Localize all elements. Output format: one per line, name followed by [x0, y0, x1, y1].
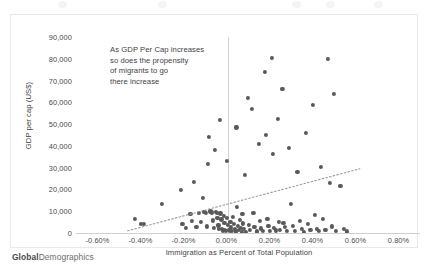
- annotation-line-1: As GDP Per Cap increases: [110, 45, 222, 56]
- x-tick-label: -0.40%: [128, 236, 152, 245]
- cropped-toolbar-remnant: [0, 0, 430, 13]
- annotation-line-3: of migrants to go: [110, 66, 222, 77]
- annotation-text: As GDP Per Cap increases so does the pro…: [110, 45, 222, 87]
- y-tick-label: 50,000: [49, 120, 72, 129]
- x-tick-label: 0.20%: [259, 236, 280, 245]
- y-tick-label: 30,000: [49, 163, 72, 172]
- chart-screenshot: 010,00020,00030,00040,00050,00060,00070,…: [0, 0, 430, 276]
- y-tick-label: 70,000: [49, 76, 72, 85]
- y-tick-label: 80,000: [49, 54, 72, 63]
- x-tick-label: 0.80%: [388, 236, 409, 245]
- brand-footer: GlobalDemographics: [12, 252, 94, 262]
- brand-rest: Demographics: [39, 252, 94, 262]
- y-tick-label: 40,000: [49, 141, 72, 150]
- x-tick-label: 0.60%: [345, 236, 366, 245]
- chart-frame: 010,00020,00030,00040,00050,00060,00070,…: [10, 14, 418, 248]
- x-axis-title-text: Immigration as Percent of Total Populati…: [166, 248, 313, 257]
- brand-bold: Global: [12, 252, 39, 262]
- x-tick-label: 0.00%: [216, 236, 237, 245]
- x-tick-label: 0.40%: [302, 236, 323, 245]
- x-tick-label: -0.20%: [171, 236, 195, 245]
- annotation-line-2: so does the propensity: [110, 56, 222, 67]
- y-axis-title: GDP per cap (US$): [24, 56, 33, 176]
- y-tick-label: 10,000: [49, 207, 72, 216]
- x-tick-label: -0.60%: [85, 236, 109, 245]
- annotation-line-4: there increase: [110, 77, 222, 88]
- x-axis-line: [76, 233, 420, 234]
- y-tick-label: 60,000: [49, 98, 72, 107]
- y-tick-label: 20,000: [49, 185, 72, 194]
- y-tick-label: 90,000: [49, 33, 72, 42]
